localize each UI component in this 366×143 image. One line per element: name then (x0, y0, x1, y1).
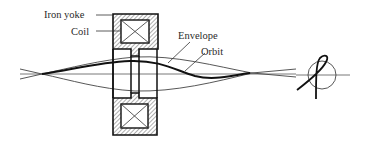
iron-yoke-top (113, 14, 158, 56)
label-envelope: Envelope (178, 30, 218, 41)
rotation-loop-icon (296, 56, 350, 99)
label-coil: Coil (71, 26, 89, 37)
label-iron-yoke: Iron yoke (44, 9, 85, 20)
iron-yoke-bottom (113, 93, 157, 135)
orbit-path (42, 61, 250, 78)
label-orbit: Orbit (201, 46, 223, 57)
magnetic-lens-diagram: Iron yoke Coil Envelope Orbit (0, 0, 366, 143)
